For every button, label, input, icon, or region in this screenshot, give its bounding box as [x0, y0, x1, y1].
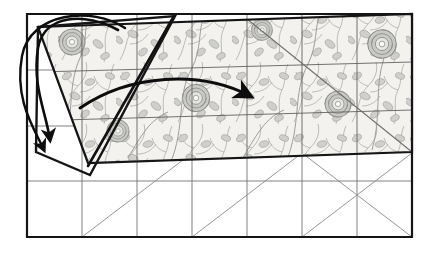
diagram-svg: [0, 0, 427, 277]
figure-canvas: [0, 0, 427, 277]
printed-fabric-panel: [38, 14, 412, 164]
